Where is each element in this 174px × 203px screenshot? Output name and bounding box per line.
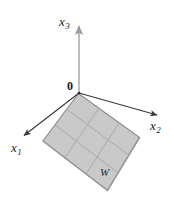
origin-label: 0 [67, 80, 73, 92]
origin-point [78, 92, 81, 95]
plane-label-w: W [100, 167, 109, 178]
axis-label-x3-subscript: 3 [65, 21, 70, 31]
axis-label-x3: x3 [59, 15, 70, 31]
axis-label-x2-base: x [150, 118, 156, 133]
axis-label-x1-subscript: 1 [17, 147, 22, 157]
axis-label-x2-subscript: 2 [156, 125, 161, 135]
plane-w-fill [43, 94, 140, 191]
axis-label-x1-base: x [11, 140, 17, 155]
diagram-canvas [0, 0, 174, 203]
plane-w-shape [43, 94, 140, 191]
axis-label-x1: x1 [11, 141, 22, 157]
figure-3d-subspace-diagram: x3 x2 x1 0 W [0, 0, 174, 203]
axis-label-x3-base: x [59, 14, 65, 29]
axis-label-x2: x2 [150, 119, 161, 135]
